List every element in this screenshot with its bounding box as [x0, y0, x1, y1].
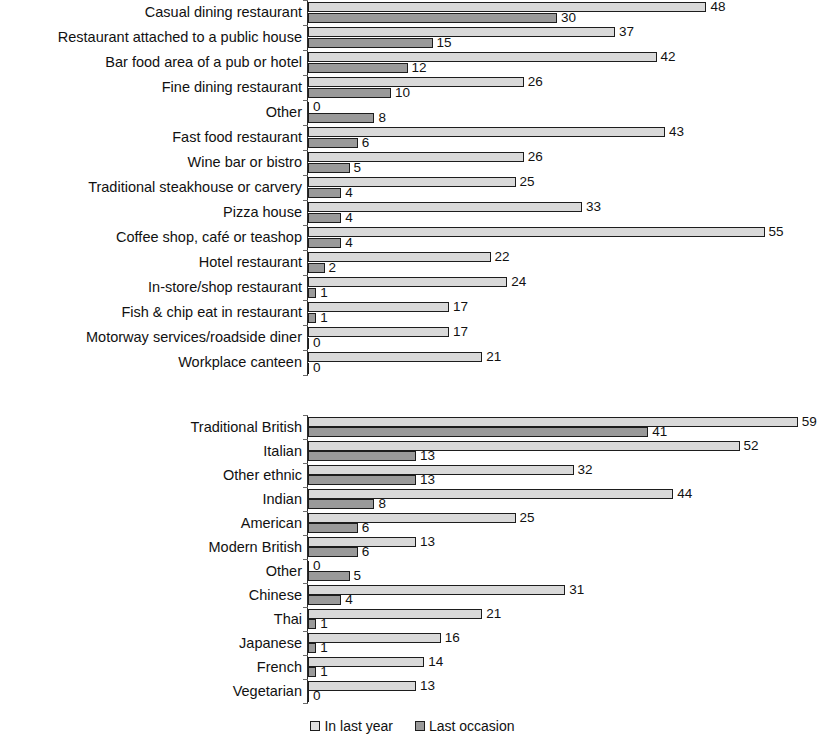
bar-group-last-occasion: 4 [308, 213, 353, 223]
bar-value-label: 17 [453, 302, 468, 312]
chart-category-row: French141 [0, 655, 825, 679]
chart-category-row: Modern British136 [0, 535, 825, 559]
cuisine-chart-rows: Traditional British5941Italian5213Other … [0, 415, 825, 703]
bar [308, 263, 325, 273]
category-plot-area: 241 [308, 275, 825, 300]
category-plot-area: 4830 [308, 0, 825, 25]
bar-group-last-occasion: 0 [308, 338, 321, 348]
bar-value-label: 8 [378, 113, 386, 123]
legend-swatch-in-last-year [310, 721, 320, 731]
bar-value-label: 13 [420, 537, 435, 547]
bar [308, 163, 350, 173]
bar-group-last-occasion: 30 [308, 13, 576, 23]
bar-group-in-last-year: 52 [308, 441, 759, 451]
chart-category-row: Motorway services/roadside diner170 [0, 325, 825, 350]
category-plot-area: 448 [308, 487, 825, 511]
axis-tick [303, 150, 308, 151]
bar-group-in-last-year: 32 [308, 465, 593, 475]
axis-tick [303, 350, 308, 351]
axis-tick [303, 275, 308, 276]
bar-value-label: 1 [320, 313, 328, 323]
bar-group-last-occasion: 4 [308, 188, 353, 198]
category-label: Chinese [0, 583, 302, 607]
bar [308, 77, 524, 87]
category-plot-area: 171 [308, 300, 825, 325]
category-label: Other [0, 559, 302, 583]
bar-group-last-occasion: 1 [308, 619, 328, 629]
bar-group-in-last-year: 0 [308, 561, 321, 571]
bar-group-in-last-year: 17 [308, 302, 468, 312]
venue-type-bar-chart: Casual dining restaurant4830Restaurant a… [0, 0, 825, 375]
bar-group-last-occasion: 4 [308, 595, 353, 605]
chart-category-row: Bar food area of a pub or hotel4212 [0, 50, 825, 75]
chart-category-row: Traditional British5941 [0, 415, 825, 439]
bar-value-label: 26 [528, 77, 543, 87]
axis-tick [303, 439, 308, 440]
category-plot-area: 2610 [308, 75, 825, 100]
axis-tick [303, 559, 308, 560]
category-plot-area: 5941 [308, 415, 825, 439]
chart-category-row: Japanese161 [0, 631, 825, 655]
category-plot-area: 5213 [308, 439, 825, 463]
bar-group-in-last-year: 13 [308, 681, 435, 691]
bar [308, 667, 316, 677]
legend-item-in-last-year: In last year [310, 718, 392, 734]
bar-value-label: 25 [520, 513, 535, 523]
bar-value-label: 5 [354, 571, 362, 581]
bar-value-label: 48 [710, 2, 725, 12]
category-label: In-store/shop restaurant [0, 275, 302, 300]
axis-tick [303, 175, 308, 176]
axis-tick [303, 225, 308, 226]
bar [308, 619, 316, 629]
bar-value-label: 15 [437, 38, 452, 48]
chart-category-row: Fish & chip eat in restaurant171 [0, 300, 825, 325]
bar [308, 451, 416, 461]
chart-category-row: In-store/shop restaurant241 [0, 275, 825, 300]
bar-value-label: 0 [313, 102, 321, 112]
bar-value-label: 10 [395, 88, 410, 98]
bar-value-label: 14 [428, 657, 443, 667]
bar-value-label: 24 [511, 277, 526, 287]
chart-category-row: Restaurant attached to a public house371… [0, 25, 825, 50]
bar [308, 313, 316, 323]
category-plot-area: 222 [308, 250, 825, 275]
bar [308, 238, 341, 248]
category-label: Fine dining restaurant [0, 75, 302, 100]
chart-category-row: Fast food restaurant436 [0, 125, 825, 150]
chart-category-row: Hotel restaurant222 [0, 250, 825, 275]
chart-category-row: American256 [0, 511, 825, 535]
bar [308, 633, 441, 643]
chart-category-row: Casual dining restaurant4830 [0, 0, 825, 25]
bar [308, 188, 341, 198]
category-plot-area: 136 [308, 535, 825, 559]
bar-value-label: 52 [744, 441, 759, 451]
chart-category-row: Other08 [0, 100, 825, 125]
category-plot-area: 141 [308, 655, 825, 679]
category-plot-area: 4212 [308, 50, 825, 75]
bar-value-label: 16 [445, 633, 460, 643]
bar-value-label: 37 [619, 27, 634, 37]
bar-group-in-last-year: 22 [308, 252, 510, 262]
bar-group-last-occasion: 13 [308, 451, 435, 461]
bar-value-label: 41 [652, 427, 667, 437]
axis-tick [303, 679, 308, 680]
bar-value-label: 6 [362, 547, 370, 557]
legend-swatch-last-occasion [415, 721, 425, 731]
bar [308, 2, 706, 12]
category-label: Other [0, 100, 302, 125]
chart-category-row: Workplace canteen210 [0, 350, 825, 375]
axis-tick [303, 250, 308, 251]
bar [308, 288, 316, 298]
category-plot-area: 3213 [308, 463, 825, 487]
bar-value-label: 13 [420, 475, 435, 485]
bar [308, 681, 416, 691]
bar-value-label: 6 [362, 138, 370, 148]
axis-tick [303, 607, 308, 608]
category-label: Indian [0, 487, 302, 511]
bar [308, 38, 433, 48]
axis-tick [303, 511, 308, 512]
bar-value-label: 25 [520, 177, 535, 187]
bar-value-label: 42 [661, 52, 676, 62]
bar-value-label: 30 [561, 13, 576, 23]
axis-tick [303, 100, 308, 101]
